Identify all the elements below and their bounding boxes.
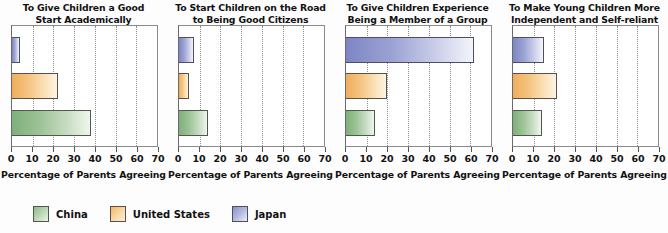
axis-tick-label: 60 — [130, 153, 143, 164]
bar-row — [179, 73, 324, 99]
axis-tick-mark — [53, 147, 54, 152]
gridline — [324, 26, 325, 146]
legend-label-japan: Japan — [255, 209, 287, 220]
axis-tick-mark — [408, 147, 409, 152]
axis-tick-label: 60 — [631, 153, 644, 164]
chart-panel-2: To Start Children on the Road to Being G… — [167, 0, 334, 190]
axis-tick-label: 10 — [526, 153, 539, 164]
legend-item-united-states[interactable]: United States — [110, 206, 210, 222]
plot-wrapper-2 — [178, 25, 325, 147]
bar-japan[interactable] — [12, 37, 20, 63]
bar-group-1 — [12, 26, 157, 146]
axis-tick-mark — [617, 147, 618, 152]
axis-tick-mark — [366, 147, 367, 152]
bar-row — [346, 110, 491, 136]
axis-tick-label: 10 — [192, 153, 205, 164]
axis-tick-label: 0 — [175, 153, 182, 164]
panel-title-3-line2: Being a Member of a Group — [337, 14, 498, 26]
gridline — [658, 26, 659, 146]
bar-row — [179, 110, 324, 136]
axis-tick-mark — [471, 147, 472, 152]
panel-title-1-line1: To Give Children a Good — [3, 2, 164, 14]
legend-label-united-states: United States — [133, 209, 210, 220]
bar-row — [12, 37, 157, 63]
bar-united-states[interactable] — [513, 73, 557, 99]
axis-tick-label: 50 — [443, 153, 456, 164]
bar-group-3 — [346, 26, 491, 146]
gridline — [491, 26, 492, 146]
plot-wrapper-4 — [512, 25, 659, 147]
chart-legend: China United States Japan — [0, 195, 668, 233]
plot-wrapper-1 — [11, 25, 158, 147]
legend-label-china: China — [56, 209, 88, 220]
plot-area-2 — [178, 25, 325, 147]
axis-tick-label: 20 — [46, 153, 59, 164]
axis-tick-label: 70 — [318, 153, 331, 164]
axis-tick-mark — [116, 147, 117, 152]
legend-item-china[interactable]: China — [33, 206, 88, 222]
bar-group-4 — [513, 26, 658, 146]
axis-tick-mark — [241, 147, 242, 152]
legend-swatch-united-states-icon — [110, 206, 126, 222]
bar-united-states[interactable] — [179, 73, 189, 99]
bar-united-states[interactable] — [346, 73, 387, 99]
axis-tick-mark — [220, 147, 221, 152]
axis-tick-label: 30 — [234, 153, 247, 164]
bar-japan[interactable] — [346, 37, 474, 63]
axis-tick-mark — [178, 147, 179, 152]
legend-swatch-japan-icon — [232, 206, 248, 222]
bar-row — [12, 73, 157, 99]
axis-tick-mark — [199, 147, 200, 152]
axis-tick-mark — [32, 147, 33, 152]
bar-china[interactable] — [346, 110, 375, 136]
axis-tick-label: 40 — [255, 153, 268, 164]
axis-tick-label: 20 — [213, 153, 226, 164]
axis-tick-mark — [325, 147, 326, 152]
axis-tick-labels-1: 010203040506070 — [11, 153, 158, 167]
bar-united-states[interactable] — [12, 73, 58, 99]
plot-wrapper-3 — [345, 25, 492, 147]
chart-figure: To Give Children a Good Start Academical… — [0, 0, 668, 233]
axis-tick-mark — [74, 147, 75, 152]
axis-tick-label: 20 — [380, 153, 393, 164]
axis-tick-label: 40 — [589, 153, 602, 164]
bar-china[interactable] — [12, 110, 91, 136]
axis-tick-mark — [492, 147, 493, 152]
axis-tick-mark — [554, 147, 555, 152]
axis-tick-label: 30 — [401, 153, 414, 164]
panel-title-4: To Make Young Children More Independent … — [501, 0, 668, 25]
panel-title-4-line2: Independent and Self-reliant — [504, 14, 665, 26]
axis-tick-label: 40 — [422, 153, 435, 164]
axis-tick-mark — [512, 147, 513, 152]
axis-tick-label: 10 — [359, 153, 372, 164]
plot-area-1 — [11, 25, 158, 147]
panel-title-3-line1: To Give Children Experience — [337, 2, 498, 14]
bar-row — [346, 73, 491, 99]
axis-tick-label: 60 — [297, 153, 310, 164]
bar-china[interactable] — [513, 110, 542, 136]
axis-tick-mark — [304, 147, 305, 152]
axis-tick-label: 0 — [8, 153, 15, 164]
legend-item-japan[interactable]: Japan — [232, 206, 287, 222]
legend-swatch-china-icon — [33, 206, 49, 222]
axis-title-3: Percentage of Parents Agreeing — [334, 167, 501, 180]
panel-title-2-line1: To Start Children on the Road — [170, 2, 331, 14]
axis-tick-label: 40 — [88, 153, 101, 164]
axis-tick-mark — [158, 147, 159, 152]
axis-tick-mark — [450, 147, 451, 152]
axis-tick-mark — [638, 147, 639, 152]
bar-japan[interactable] — [179, 37, 194, 63]
axis-tick-mark — [533, 147, 534, 152]
panel-title-2: To Start Children on the Road to Being G… — [167, 0, 334, 25]
axis-tick-mark — [137, 147, 138, 152]
bar-japan[interactable] — [513, 37, 544, 63]
bar-row — [179, 37, 324, 63]
bar-row — [513, 37, 658, 63]
axis-tick-mark — [387, 147, 388, 152]
axis-title-2: Percentage of Parents Agreeing — [167, 167, 334, 180]
bar-china[interactable] — [179, 110, 208, 136]
gridline — [157, 26, 158, 146]
chart-panel-1: To Give Children a Good Start Academical… — [0, 0, 167, 190]
bar-row — [513, 110, 658, 136]
chart-panel-3: To Give Children Experience Being a Memb… — [334, 0, 501, 190]
